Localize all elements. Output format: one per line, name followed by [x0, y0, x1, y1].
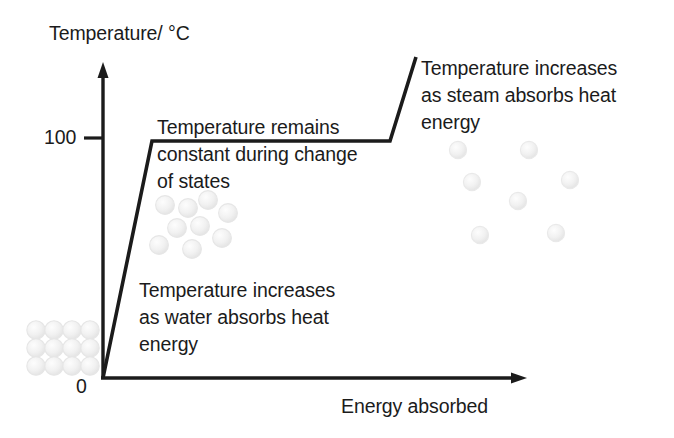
- particle-cluster-solid: [27, 321, 99, 375]
- heating-curve-figure: Temperature/ °C Energy absorbed 100 0 Te…: [0, 0, 674, 438]
- annotation-change-of-state: Temperature remains constant during chan…: [157, 114, 358, 195]
- annotation-steam-heating: Temperature increases as steam absorbs h…: [421, 55, 617, 136]
- y-axis-label: Temperature/ °C: [49, 20, 190, 47]
- origin-label-0: 0: [76, 373, 87, 400]
- annotation-water-heating: Temperature increases as water absorbs h…: [139, 277, 335, 358]
- particle-cluster-gas: [449, 141, 578, 243]
- x-axis: [101, 373, 527, 384]
- y-tick-label-100: 100: [44, 124, 76, 151]
- x-axis-label: Energy absorbed: [341, 393, 488, 420]
- particle-cluster-liquid: [150, 191, 238, 259]
